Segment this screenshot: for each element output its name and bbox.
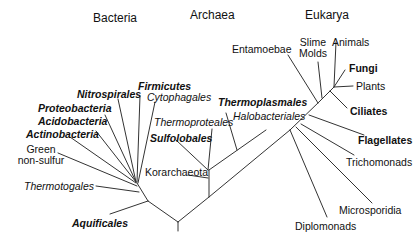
taxon-microsporidia: Microsporidia: [339, 205, 401, 216]
domain-label-bacteria: Bacteria: [93, 13, 137, 24]
taxon-cytophagales: Cytophagales: [147, 92, 211, 103]
taxon-ciliates: Ciliates: [350, 106, 387, 117]
domain-label-archaea: Archaea: [190, 10, 235, 21]
taxon-diplomonads: Diplomonads: [295, 221, 356, 232]
taxon-actinobacteria: Actinobacteria: [26, 129, 99, 140]
taxon-korarchaeota: Korarchaeota: [145, 167, 208, 178]
taxon-green-line2: non-sulfur: [17, 155, 65, 166]
taxon-proteobacteria: Proteobacteria: [38, 103, 112, 114]
taxon-nitrospirales: Nitrospirales: [77, 89, 141, 100]
taxon-halobacteriales: Halobacteriales: [233, 111, 305, 122]
taxon-thermoplasmales: Thermoplasmales: [218, 97, 307, 108]
taxon-thermotogales: Thermotogales: [24, 181, 94, 192]
taxon-animals: Animals: [332, 37, 369, 48]
taxon-entamoebae: Entamoebae: [232, 44, 292, 55]
taxon-trichomonads: Trichomonads: [346, 157, 412, 168]
taxon-thermoproteales: Thermoproteales: [154, 117, 233, 128]
taxon-slime-line2: Molds: [298, 48, 328, 59]
domain-label-eukarya: Eukarya: [305, 10, 349, 21]
taxon-fungi: Fungi: [349, 63, 378, 74]
taxon-green-non-sulfur: Green non-sulfur: [17, 144, 65, 166]
taxon-flagellates: Flagellates: [358, 135, 412, 146]
taxon-aquificales: Aquificales: [72, 218, 128, 229]
taxon-sulfolobales: Sulfolobales: [150, 133, 212, 144]
taxon-plants: Plants: [356, 81, 385, 92]
taxon-slime-molds: Slime Molds: [298, 37, 328, 59]
taxon-acidobacteria: Acidobacteria: [38, 116, 107, 127]
